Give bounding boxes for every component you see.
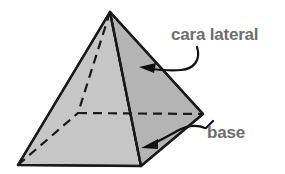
pyramid-base-edge-front-left [18,165,141,166]
pyramid-hidden-edge-back-right [78,113,203,114]
pyramid-figure: cara lateral base [0,0,285,174]
label-cara-lateral: cara lateral [171,26,258,43]
label-base: base [207,124,245,141]
